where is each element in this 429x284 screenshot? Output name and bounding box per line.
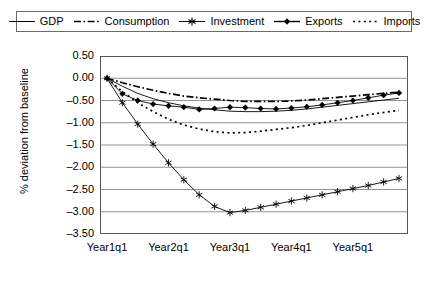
y-tick-label: –0.50: [50, 95, 94, 106]
y-tick-label: –3.00: [50, 206, 94, 217]
legend-label-investment: Investment: [210, 16, 264, 27]
y-tick-label: –1.00: [50, 117, 94, 128]
series-imports: [107, 78, 399, 133]
data-point-marker: [150, 101, 156, 107]
diamond-marker-swatch: [273, 16, 301, 27]
data-point-marker: [196, 106, 202, 112]
data-point-marker: [211, 105, 217, 111]
chart-figure: GDP Consumption Investment: [0, 0, 429, 284]
dotted-line-swatch: [352, 16, 380, 27]
x-tick-label: Year3q1: [195, 242, 265, 253]
y-tick-label: –2.50: [50, 184, 94, 195]
series-investment: [104, 75, 402, 217]
series-gdp: [107, 78, 399, 111]
x-tick-label: Year4q1: [256, 242, 326, 253]
y-tick-label: 0.50: [50, 50, 94, 61]
y-tick-label: –1.50: [50, 139, 94, 150]
x-axis-tick-labels: Year1q1Year2q1Year3q1Year4q1Year5q1: [0, 242, 429, 258]
legend-label-exports: Exports: [305, 16, 342, 27]
y-tick-label: 0.00: [50, 72, 94, 83]
data-point-marker: [165, 103, 171, 109]
data-point-marker: [227, 104, 233, 110]
series-line: [107, 78, 399, 111]
legend-item-imports: Imports: [352, 16, 421, 27]
legend-item-investment: Investment: [178, 16, 264, 27]
data-point-marker: [396, 90, 402, 96]
data-point-marker: [258, 105, 264, 111]
series-line: [107, 78, 399, 133]
legend-label-imports: Imports: [384, 16, 421, 27]
y-tick-label: –3.50: [50, 228, 94, 239]
asterisk-marker-swatch: [178, 16, 206, 27]
solid-line-swatch: [8, 16, 36, 27]
x-tick-label: Year5q1: [318, 242, 388, 253]
data-point-marker: [350, 97, 356, 103]
y-axis-title: % deviation from baseline: [18, 41, 30, 221]
data-point-marker: [380, 178, 386, 185]
data-point-marker: [211, 203, 217, 210]
legend-item-exports: Exports: [273, 16, 342, 27]
x-tick-label: Year1q1: [72, 242, 142, 253]
x-tick-label: Year2q1: [133, 242, 203, 253]
legend-label-consumption: Consumption: [105, 16, 170, 27]
data-point-marker: [396, 175, 402, 182]
series-exports: [104, 75, 402, 112]
data-point-marker: [242, 105, 248, 111]
y-tick-label: –2.00: [50, 161, 94, 172]
plot-series-layer: [100, 56, 408, 234]
